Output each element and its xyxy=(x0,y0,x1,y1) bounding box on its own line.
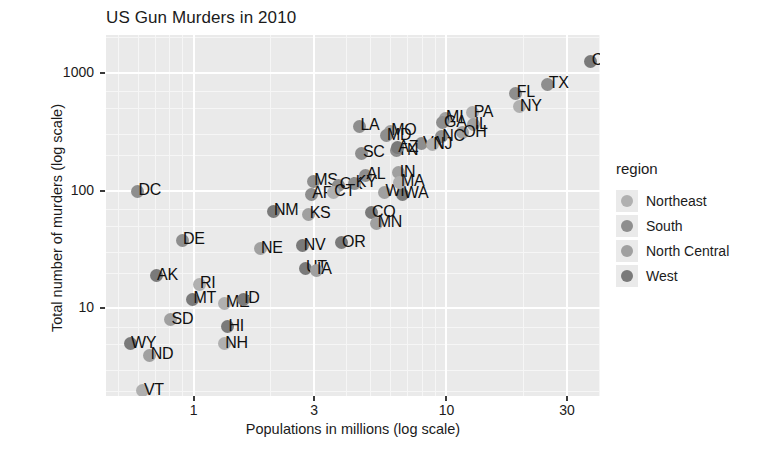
data-point-label: CT xyxy=(334,182,355,200)
y-axis-tick xyxy=(100,190,105,192)
gridline-vertical-minor xyxy=(169,35,170,396)
legend-item-label: North Central xyxy=(646,243,729,259)
data-point-label: CA xyxy=(592,51,600,69)
plot-panel: CATXFLNYPAMIILLAMOGAOHNCSCMDVATNNJAZINAL… xyxy=(106,35,600,396)
x-axis-tick xyxy=(566,396,568,401)
data-point-label: MA xyxy=(401,172,424,190)
data-point-label: SD xyxy=(172,310,194,328)
data-point-label: NY xyxy=(520,97,542,115)
scatter-plot-figure: US Gun Murders in 2010 Total number of m… xyxy=(0,0,780,450)
gridline-horizontal-minor xyxy=(106,37,600,38)
data-point-label: KY xyxy=(356,173,377,191)
data-point-label: IA xyxy=(317,260,332,278)
y-axis-tick-label: 1000 xyxy=(42,64,94,80)
legend-key xyxy=(616,265,638,287)
y-axis-title: Total number of murders (log scale) xyxy=(49,53,65,383)
gridline-horizontal-minor xyxy=(106,391,600,392)
data-point-label: NE xyxy=(261,239,283,257)
gridline-vertical-minor xyxy=(599,35,600,396)
x-axis-tick xyxy=(313,396,315,401)
data-point-label: AK xyxy=(157,266,178,284)
legend-item-label: West xyxy=(646,268,678,284)
x-axis-tick xyxy=(193,396,195,401)
data-point-label: ND xyxy=(151,345,174,363)
legend-item-label: South xyxy=(646,218,683,234)
legend-item-west[interactable]: West xyxy=(616,263,776,288)
gridline-vertical xyxy=(445,35,447,396)
data-point-label: NH xyxy=(225,334,248,352)
legend-title: region xyxy=(616,160,776,177)
gridline-vertical-minor xyxy=(182,35,183,396)
gridline-horizontal-minor xyxy=(106,344,600,345)
data-point-label: LA xyxy=(361,116,380,134)
data-point-label: DC xyxy=(139,181,162,199)
gridline-horizontal-minor xyxy=(106,273,600,274)
data-point-label: NM xyxy=(274,201,298,219)
legend-dot-icon xyxy=(621,195,633,207)
data-point-label: MN xyxy=(378,213,402,231)
x-axis-tick-label: 30 xyxy=(547,402,587,418)
x-axis-tick-label: 1 xyxy=(174,402,214,418)
data-point-label: KS xyxy=(310,204,331,222)
gridline-vertical-minor xyxy=(346,35,347,396)
gridline-vertical-minor xyxy=(407,35,408,396)
x-axis-tick-label: 10 xyxy=(426,402,466,418)
legend-item-north-central[interactable]: North Central xyxy=(616,238,776,263)
data-point-label: VT xyxy=(144,381,164,396)
legend-items: NortheastSouthNorth CentralWest xyxy=(616,188,776,288)
x-axis-title: Populations in millions (log scale) xyxy=(106,421,600,437)
data-point-label: DE xyxy=(183,230,205,248)
data-point-label: OR xyxy=(342,233,365,251)
data-point-label: NV xyxy=(304,236,326,254)
gridline-horizontal-minor xyxy=(106,209,600,210)
legend-item-south[interactable]: South xyxy=(616,213,776,238)
gridline-horizontal-minor xyxy=(106,155,600,156)
y-axis-tick xyxy=(100,307,105,309)
y-axis-tick xyxy=(100,72,105,74)
page-title: US Gun Murders in 2010 xyxy=(106,8,296,28)
legend-key xyxy=(616,215,638,237)
legend-key xyxy=(616,190,638,212)
gridline-horizontal xyxy=(106,72,600,74)
legend-dot-icon xyxy=(621,220,633,232)
gridline-vertical-minor xyxy=(422,35,423,396)
data-point-label: MT xyxy=(194,289,217,307)
legend-key xyxy=(616,240,638,262)
gridline-vertical-minor xyxy=(118,35,119,396)
y-axis-tick-label: 10 xyxy=(42,299,94,315)
gridline-horizontal-minor xyxy=(106,134,600,135)
gridline-horizontal-minor xyxy=(106,370,600,371)
data-point-label: NJ xyxy=(433,135,452,153)
gridline-vertical xyxy=(193,35,195,396)
gridline-horizontal-minor xyxy=(106,226,600,227)
data-point-label: SC xyxy=(363,143,385,161)
data-point-label: ID xyxy=(244,289,259,307)
data-point-label: HI xyxy=(228,317,243,335)
gridline-horizontal-minor xyxy=(106,252,600,253)
legend-dot-icon xyxy=(621,270,633,282)
legend: region NortheastSouthNorth CentralWest xyxy=(616,160,776,288)
gridline-vertical-minor xyxy=(435,35,436,396)
x-axis-tick xyxy=(445,396,447,401)
legend-item-label: Northeast xyxy=(646,193,707,209)
legend-item-northeast[interactable]: Northeast xyxy=(616,188,776,213)
data-point-label: TX xyxy=(549,74,569,92)
legend-dot-icon xyxy=(621,245,633,257)
y-axis-tick-label: 100 xyxy=(42,182,94,198)
data-point-label: OH xyxy=(463,123,486,141)
x-axis-tick-label: 3 xyxy=(294,402,334,418)
data-point-label: AZ xyxy=(398,138,418,156)
